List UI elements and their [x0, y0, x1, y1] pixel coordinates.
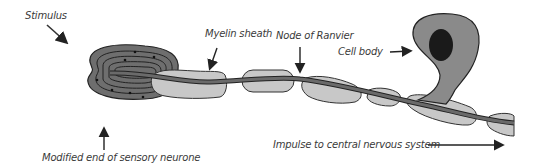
- nucleus: [429, 29, 453, 61]
- label-node-of-ranvier: Node of Ranvier: [276, 30, 353, 41]
- label-cell-body: Cell body: [338, 46, 383, 57]
- label-modified-end: Modified end of sensory neurone: [42, 152, 200, 163]
- stimulus-arrow: [47, 25, 66, 42]
- diagram-graphic: [0, 0, 533, 166]
- cell-body: [413, 14, 479, 104]
- label-impulse: Impulse to central nervous system: [273, 139, 440, 150]
- label-stimulus: Stimulus: [25, 10, 67, 21]
- neurone-diagram: Stimulus Myelin sheath Node of Ranvier C…: [0, 0, 533, 166]
- label-myelin-sheath: Myelin sheath: [205, 28, 272, 39]
